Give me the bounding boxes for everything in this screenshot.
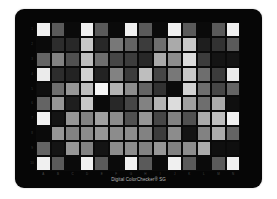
color-patch (182, 96, 197, 111)
color-patch (36, 52, 51, 67)
color-patch (36, 126, 51, 141)
color-patch (153, 141, 168, 156)
color-patch (80, 141, 95, 156)
color-patch (65, 111, 80, 126)
color-patch (197, 111, 212, 126)
color-patch (226, 156, 241, 171)
color-patch (211, 22, 226, 37)
color-patch (109, 156, 124, 171)
color-patch (211, 82, 226, 97)
color-patch (153, 111, 168, 126)
color-patch (65, 141, 80, 156)
color-patch (226, 141, 241, 156)
row-label: 10 (29, 156, 35, 171)
row-label: 1 (29, 22, 35, 37)
color-patch (226, 82, 241, 97)
color-patch (197, 37, 212, 52)
color-patch (197, 126, 212, 141)
color-patch (211, 126, 226, 141)
color-patch (124, 96, 139, 111)
color-patch (124, 52, 139, 67)
color-patch (36, 22, 51, 37)
color-patch (124, 67, 139, 82)
color-patch (124, 156, 139, 171)
color-patch (226, 126, 241, 141)
color-patch (109, 96, 124, 111)
color-patch (182, 37, 197, 52)
color-patch (211, 37, 226, 52)
color-patch (226, 52, 241, 67)
color-patch (109, 67, 124, 82)
color-patch (153, 96, 168, 111)
color-patch (51, 52, 66, 67)
color-patch (51, 156, 66, 171)
color-patch (167, 67, 182, 82)
color-patch (138, 126, 153, 141)
color-patch (109, 111, 124, 126)
color-patch (153, 82, 168, 97)
color-patch (80, 126, 95, 141)
row-labels: 12345678910 (29, 22, 35, 171)
row-label: 8 (29, 126, 35, 141)
color-patch (80, 156, 95, 171)
color-patch (182, 82, 197, 97)
color-patch (65, 22, 80, 37)
color-patch (138, 82, 153, 97)
color-patch (51, 141, 66, 156)
color-patch (94, 52, 109, 67)
color-patch (197, 22, 212, 37)
color-patch (65, 82, 80, 97)
color-patch (226, 22, 241, 37)
color-patch (153, 126, 168, 141)
color-patch (94, 126, 109, 141)
color-patch (36, 156, 51, 171)
color-patch (197, 156, 212, 171)
color-patch (36, 111, 51, 126)
color-patch (138, 67, 153, 82)
color-patch (211, 141, 226, 156)
color-patch (36, 37, 51, 52)
color-patch (138, 96, 153, 111)
color-patch (138, 111, 153, 126)
color-patch (211, 52, 226, 67)
color-patch (182, 22, 197, 37)
color-patch (94, 82, 109, 97)
color-patch (94, 37, 109, 52)
color-patch (182, 67, 197, 82)
color-patch (167, 126, 182, 141)
color-patch (167, 96, 182, 111)
color-patch (65, 67, 80, 82)
color-patch (197, 141, 212, 156)
color-patch (167, 22, 182, 37)
color-checker-card: 12345678910 ABCDEFGHIJKLMN Digital Color… (15, 9, 262, 188)
color-patch (80, 96, 95, 111)
color-patch (51, 67, 66, 82)
color-patch (36, 141, 51, 156)
color-patch (226, 37, 241, 52)
brand-label: Digital ColorChecker® SG (15, 177, 262, 182)
row-label: 4 (29, 67, 35, 82)
color-patch (36, 82, 51, 97)
color-patch (80, 52, 95, 67)
color-patch (197, 67, 212, 82)
color-patch (211, 67, 226, 82)
color-patch (182, 111, 197, 126)
color-patch (182, 156, 197, 171)
color-patch (138, 22, 153, 37)
color-patch (167, 156, 182, 171)
color-patch (124, 141, 139, 156)
row-label: 9 (29, 141, 35, 156)
color-patch (226, 96, 241, 111)
color-patch (51, 126, 66, 141)
color-patch (153, 22, 168, 37)
color-patch (65, 37, 80, 52)
color-patch (138, 141, 153, 156)
color-patch (109, 37, 124, 52)
color-patch (94, 111, 109, 126)
color-patch (211, 96, 226, 111)
color-patch (167, 111, 182, 126)
color-patch (153, 67, 168, 82)
color-patch (167, 141, 182, 156)
color-patch (182, 126, 197, 141)
color-patch (226, 111, 241, 126)
